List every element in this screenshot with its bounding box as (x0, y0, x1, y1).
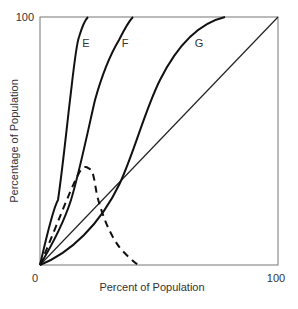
curve-g (40, 17, 225, 265)
curve-f (40, 17, 133, 265)
x-axis-label: Percent of Population (99, 281, 204, 293)
y-tick-100: 100 (16, 11, 34, 23)
x-tick-0: 0 (32, 272, 38, 284)
label-e: E (82, 37, 89, 49)
curve-e (40, 17, 88, 265)
label-f: F (122, 37, 129, 49)
x-tick-100: 100 (267, 272, 285, 284)
label-g: G (195, 37, 204, 49)
y-axis-label: Percentage of Population (8, 79, 20, 203)
lorenz-chart: 100 0 100 Percent of Population Percenta… (0, 0, 298, 309)
